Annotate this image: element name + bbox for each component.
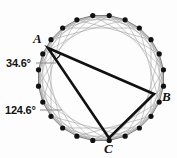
polygon-vertex-dot: [137, 25, 142, 30]
polygon-vertex-dot: [60, 125, 65, 130]
polygon-vertex-dot: [137, 125, 142, 130]
vertex-label-c: C: [104, 141, 113, 157]
polygon-vertex-dot: [148, 114, 153, 119]
polygon-vertex-dot: [74, 134, 79, 139]
polygon-vertex-dot: [60, 25, 65, 30]
angle-label-c: 124.6°: [5, 104, 36, 116]
polygon-vertex-dot: [123, 134, 128, 139]
polygon-vertex-dot: [74, 17, 79, 22]
vertex-label-b: B: [162, 89, 171, 105]
polygon-vertex-dot: [148, 37, 153, 42]
chord-line: [109, 16, 163, 70]
geometry-figure: 34.6° 124.6° A B C: [0, 0, 177, 158]
triangle-path: [48, 48, 154, 138]
chord-line: [39, 16, 93, 70]
polygon-vertex-dot: [107, 13, 112, 18]
polygon-vertex-dots: [36, 13, 166, 143]
angle-label-a: 34.6°: [6, 57, 31, 69]
polygon-vertex-dot: [90, 138, 95, 143]
polygon-vertex-dot: [48, 114, 53, 119]
polygon-outline-group: [39, 16, 164, 141]
polygon-outline: [39, 16, 164, 141]
polygon-vertex-dot: [40, 51, 45, 56]
triangle-abc: [48, 48, 154, 138]
polygon-vertex-dot: [90, 13, 95, 18]
polygon-vertex-dot: [36, 67, 41, 72]
vertex-label-a: A: [33, 31, 42, 47]
chord-line: [39, 86, 93, 140]
figure-canvas: [0, 0, 177, 158]
inscribed-chords-group: [39, 16, 164, 141]
polygon-vertex-dot: [157, 51, 162, 56]
polygon-vertex-dot: [48, 37, 53, 42]
polygon-vertex-dot: [36, 84, 41, 89]
polygon-vertex-dot: [40, 100, 45, 105]
polygon-vertex-dot: [161, 67, 166, 72]
polygon-vertex-dot: [123, 17, 128, 22]
